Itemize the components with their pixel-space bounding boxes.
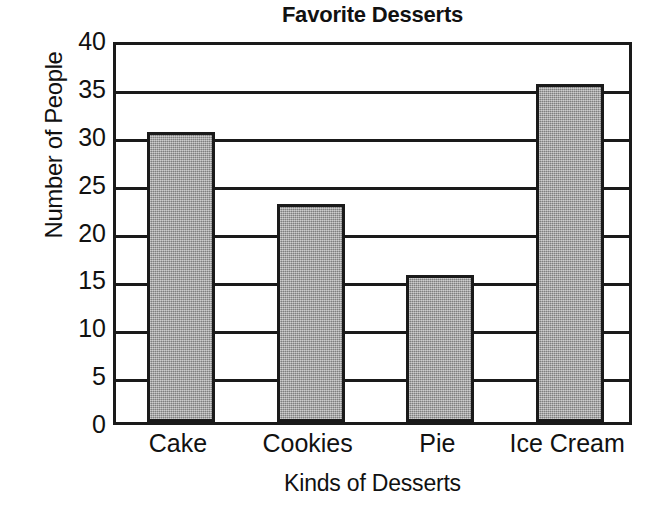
x-axis-title: Kinds of Desserts: [113, 470, 632, 497]
x-axis-tick-label: Pie: [373, 430, 503, 458]
bar: [406, 275, 474, 422]
y-axis-tick-labels: 0510152025303540: [44, 0, 106, 515]
x-axis-tick-label: Cookies: [243, 430, 373, 458]
x-axis-tick-labels: CakeCookiesPieIce Cream: [113, 430, 632, 466]
bar: [536, 84, 604, 422]
y-axis-tick-label: 20: [44, 221, 106, 246]
x-axis-tick-label: Cake: [113, 430, 243, 458]
chart-title: Favorite Desserts: [110, 2, 635, 28]
bar: [277, 204, 345, 422]
y-axis-tick-label: 0: [44, 412, 106, 437]
y-axis-tick-label: 15: [44, 268, 106, 293]
bar: [147, 132, 215, 422]
x-axis-tick-label: Ice Cream: [502, 430, 632, 458]
y-axis-tick-label: 35: [44, 77, 106, 102]
y-axis-tick-label: 10: [44, 316, 106, 341]
y-axis-tick-label: 5: [44, 364, 106, 389]
y-axis-tick-label: 40: [44, 29, 106, 54]
plot-area: [113, 42, 632, 425]
y-axis-tick-label: 25: [44, 173, 106, 198]
y-axis-tick-label: 30: [44, 125, 106, 150]
bar-chart: Favorite Desserts Number of People 05101…: [0, 0, 657, 515]
